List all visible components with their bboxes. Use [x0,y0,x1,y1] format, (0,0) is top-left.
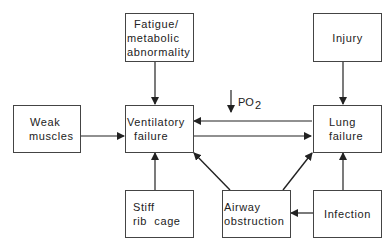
node-lung-failure-line-2: failure [329,129,381,143]
node-ventilatory-failure-line-1: Ventilatory [127,115,193,129]
po2-text: PO [238,96,254,108]
node-weak-muscles-line-1: Weak [29,115,80,129]
node-injury: Injury [313,13,382,62]
node-lung-failure: Lung failure [313,105,382,153]
node-airway-obstruction-line-1: Airway [224,200,290,214]
node-infection-line-1: Infection [324,207,371,221]
node-airway-obstruction-line-2: obstruction [224,214,290,228]
node-infection: Infection [313,190,382,238]
node-weak-muscles-line-2: muscles [29,129,80,143]
node-fatigue: Fatigue/ metabolic abnormality [125,13,194,62]
node-stiff-rib-cage-line-2: rib cage [133,214,193,228]
node-injury-line-1: Injury [332,31,363,45]
node-ventilatory-failure: Ventilatory failure [125,105,194,153]
node-stiff-rib-cage: Stiff rib cage [125,190,194,238]
node-airway-obstruction: Airway obstruction [222,190,291,238]
po2-label: PO2 [238,96,261,108]
po2-subscript: 2 [255,99,261,111]
node-lung-failure-line-1: Lung [329,115,381,129]
node-stiff-rib-cage-line-1: Stiff [133,200,193,214]
node-fatigue-line-3: abnormality [127,45,193,59]
node-weak-muscles: Weak muscles [13,105,81,153]
node-fatigue-line-2: metabolic [127,31,193,45]
node-ventilatory-failure-line-2: failure [127,129,193,143]
node-fatigue-line-1: Fatigue/ [127,17,193,31]
